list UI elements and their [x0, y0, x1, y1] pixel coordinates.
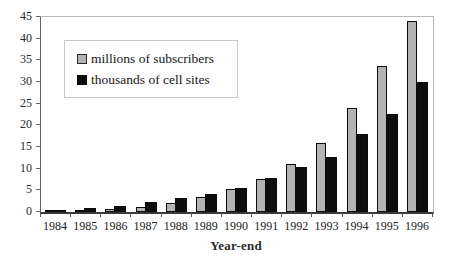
x-tick-mark	[281, 213, 282, 217]
x-tick-label: 1990	[219, 220, 253, 233]
x-tick-mark	[251, 213, 252, 217]
x-tick-label: 1992	[279, 220, 313, 233]
y-tick-mark	[36, 146, 40, 147]
x-tick-label: 1991	[249, 220, 283, 233]
y-tick-mark	[36, 124, 40, 125]
bar-cell-sites	[235, 188, 247, 212]
y-tick-label: 15	[2, 140, 32, 152]
bar-cell-sites	[295, 167, 307, 212]
x-tick-label: 1984	[38, 220, 72, 233]
bar-cell-sites	[175, 198, 187, 212]
y-tick-label: 5	[2, 183, 32, 195]
y-tick-mark	[36, 103, 40, 104]
y-tick-label: 30	[2, 75, 32, 87]
y-tick-label: 25	[2, 97, 32, 109]
x-tick-mark	[311, 213, 312, 217]
x-tick-label: 1988	[159, 220, 193, 233]
x-tick-mark	[100, 213, 101, 217]
x-tick-mark	[402, 213, 403, 217]
x-tick-mark	[70, 213, 71, 217]
x-tick-label: 1989	[189, 220, 223, 233]
y-tick-label: 35	[2, 53, 32, 65]
legend: millions of subscribers thousands of cel…	[64, 40, 238, 98]
y-tick-mark	[36, 189, 40, 190]
x-tick-label: 1986	[98, 220, 132, 233]
legend-label-cell-sites: thousands of cell sites	[91, 72, 210, 88]
y-tick-label: 40	[2, 32, 32, 44]
y-tick-mark	[36, 59, 40, 60]
legend-swatch-subscribers-icon	[77, 54, 87, 64]
x-tick-mark	[372, 213, 373, 217]
bar-cell-sites	[84, 208, 96, 212]
x-tick-mark	[130, 213, 131, 217]
legend-item-subscribers: millions of subscribers	[77, 48, 227, 69]
x-tick-mark	[221, 213, 222, 217]
x-tick-mark	[432, 213, 433, 217]
bar-cell-sites	[145, 202, 157, 212]
y-tick-mark	[36, 211, 40, 212]
x-tick-label: 1995	[370, 220, 404, 233]
x-axis-title: Year-end	[40, 238, 432, 254]
bar-cell-sites	[54, 210, 66, 212]
x-tick-label: 1994	[340, 220, 374, 233]
y-tick-label: 0	[2, 205, 32, 217]
y-tick-mark	[36, 81, 40, 82]
y-tick-mark	[36, 38, 40, 39]
x-tick-label: 1993	[309, 220, 343, 233]
y-tick-mark	[36, 168, 40, 169]
bar-cell-sites	[416, 82, 428, 212]
y-tick-label: 45	[2, 10, 32, 22]
bar-cell-sites	[386, 114, 398, 212]
bar-chart: millions of subscribers thousands of cel…	[0, 0, 450, 264]
x-tick-mark	[40, 213, 41, 217]
bar-cell-sites	[205, 194, 217, 212]
bar-cell-sites	[356, 134, 368, 212]
legend-swatch-cell-sites-icon	[77, 75, 87, 85]
legend-label-subscribers: millions of subscribers	[91, 51, 214, 67]
y-tick-label: 20	[2, 118, 32, 130]
x-tick-label: 1985	[68, 220, 102, 233]
bar-cell-sites	[265, 178, 277, 212]
x-tick-label: 1987	[129, 220, 163, 233]
x-tick-mark	[191, 213, 192, 217]
y-tick-mark	[36, 16, 40, 17]
x-tick-mark	[161, 213, 162, 217]
legend-item-cell-sites: thousands of cell sites	[77, 69, 227, 90]
y-tick-label: 10	[2, 162, 32, 174]
bar-cell-sites	[325, 157, 337, 212]
x-tick-label: 1996	[400, 220, 434, 233]
bar-cell-sites	[114, 206, 126, 213]
x-tick-mark	[342, 213, 343, 217]
